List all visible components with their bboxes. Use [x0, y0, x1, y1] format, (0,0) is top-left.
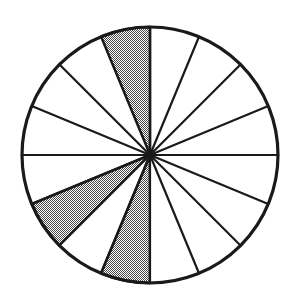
fraction-circle-svg	[0, 0, 297, 301]
fraction-circle-figure	[0, 0, 297, 301]
center-point	[147, 152, 154, 159]
